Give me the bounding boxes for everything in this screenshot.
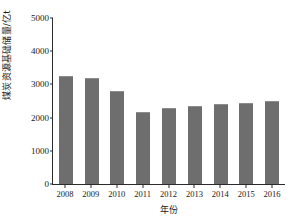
x-axis-tick-text: 2016 xyxy=(264,189,281,199)
x-axis-tick-label: 2014 xyxy=(207,185,233,199)
x-axis-tick-text: 2014 xyxy=(212,189,229,199)
x-axis-tick-label: 2012 xyxy=(156,185,182,199)
x-axis-title: 年份 xyxy=(52,203,285,216)
bar xyxy=(59,76,73,184)
bar-slot xyxy=(259,18,285,184)
x-axis-tick-label: 2008 xyxy=(52,185,78,199)
x-axis-tick-mark xyxy=(194,185,195,188)
bar-slot xyxy=(105,18,131,184)
x-axis-tick-text: 2010 xyxy=(108,189,125,199)
x-axis-tick-text: 2008 xyxy=(56,189,73,199)
x-axis-tick-label: 2013 xyxy=(181,185,207,199)
bar xyxy=(214,104,228,184)
bar-slot xyxy=(53,18,79,184)
x-axis-tick-text: 2011 xyxy=(134,189,151,199)
bar xyxy=(188,106,202,184)
x-axis-tick-mark xyxy=(116,185,117,188)
x-axis-tick-label: 2015 xyxy=(233,185,259,199)
x-axis-tick-text: 2009 xyxy=(82,189,99,199)
x-axis-tick-mark xyxy=(64,185,65,188)
x-axis-tick-text: 2012 xyxy=(160,189,177,199)
x-axis-tick-mark xyxy=(142,185,143,188)
bar-series xyxy=(53,18,285,184)
x-axis-ticks: 200820092010201120122013201420152016 xyxy=(52,185,285,199)
bar-chart: 煤炭资源基础储量/亿t 010002000300040005000 200820… xyxy=(0,0,295,224)
bar-slot xyxy=(156,18,182,184)
x-axis-tick-mark xyxy=(220,185,221,188)
bar-slot xyxy=(233,18,259,184)
plot-area: 010002000300040005000 xyxy=(52,18,285,185)
bar xyxy=(162,108,176,184)
bar-slot xyxy=(182,18,208,184)
x-axis-tick-text: 2015 xyxy=(238,189,255,199)
x-axis-tick-mark xyxy=(272,185,273,188)
bar xyxy=(265,101,279,184)
x-axis-tick-mark xyxy=(168,185,169,188)
bar xyxy=(136,112,150,184)
bar xyxy=(85,78,99,184)
y-axis-title: 煤炭资源基础储量/亿t xyxy=(2,0,12,110)
x-axis-tick-label: 2010 xyxy=(104,185,130,199)
x-axis-tick-text: 2013 xyxy=(186,189,203,199)
bar xyxy=(239,103,253,184)
x-axis-tick-label: 2016 xyxy=(259,185,285,199)
x-axis-tick-label: 2011 xyxy=(130,185,156,199)
bar xyxy=(110,91,124,184)
bar-slot xyxy=(79,18,105,184)
bar-slot xyxy=(130,18,156,184)
x-axis-tick-mark xyxy=(90,185,91,188)
x-axis-tick-label: 2009 xyxy=(78,185,104,199)
bar-slot xyxy=(208,18,234,184)
x-axis-tick-mark xyxy=(246,185,247,188)
